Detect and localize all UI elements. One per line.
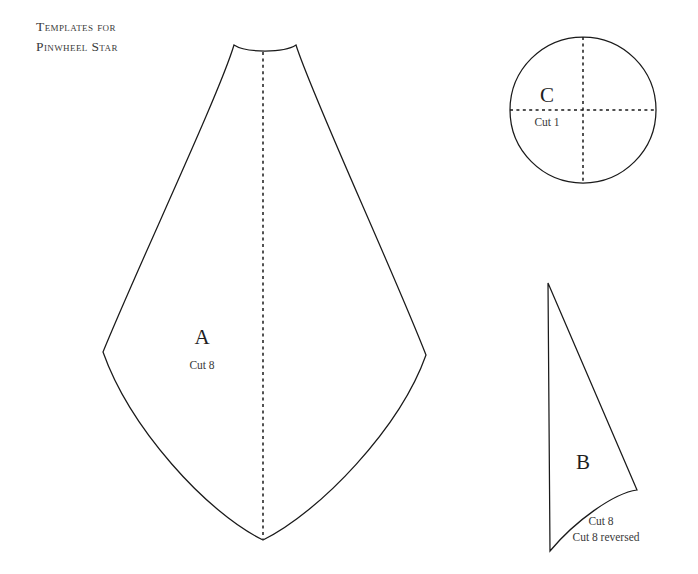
piece-b-outline — [548, 283, 637, 551]
piece-a-letter-label: A — [194, 325, 209, 350]
template-sheet: Templates for Pinwheel Star A Cut 8 C Cu… — [0, 0, 698, 574]
piece-c-group — [510, 37, 656, 183]
piece-b-cut-note: Cut 8 — [588, 515, 613, 529]
piece-b-letter-label: B — [576, 450, 590, 475]
sheet-title-line-1: Templates for — [36, 19, 118, 35]
piece-b-group — [548, 283, 637, 551]
piece-c-cut-note: Cut 1 — [534, 116, 559, 130]
piece-a-group — [103, 45, 426, 540]
piece-a-outline — [103, 45, 426, 540]
piece-a-cut-note: Cut 8 — [189, 359, 214, 373]
sheet-title-line-2: Pinwheel Star — [36, 39, 118, 55]
sheet-title: Templates for Pinwheel Star — [36, 19, 118, 55]
piece-b-cut-note-reversed: Cut 8 reversed — [572, 531, 639, 545]
pattern-pieces-canvas — [0, 0, 698, 574]
piece-c-letter-label: C — [540, 83, 554, 108]
